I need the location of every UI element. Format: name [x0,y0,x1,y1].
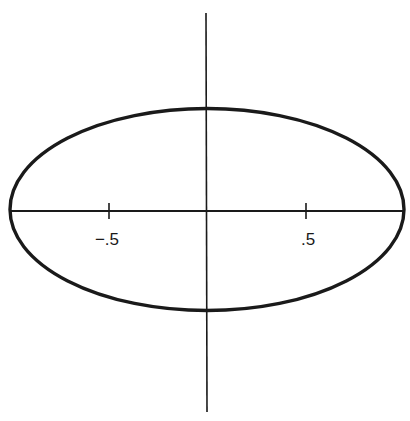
x-tick-label-pos-half: .5 [301,230,315,249]
y-axis [206,13,207,412]
x-tick-label-neg-half: −.5 [95,230,119,249]
ellipse-plot: −.5 .5 [0,0,410,421]
